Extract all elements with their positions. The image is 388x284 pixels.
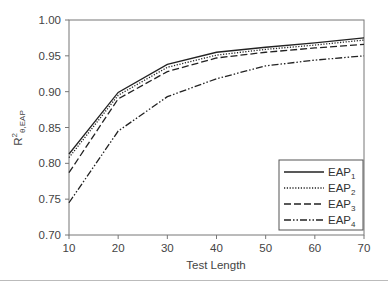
x-tick-label: 10 <box>63 242 76 254</box>
divider <box>0 280 388 281</box>
legend: EAP1EAP2EAP3EAP4 <box>279 160 363 230</box>
x-axis-title: Test Length <box>186 259 245 271</box>
svg-text:R2θ,EAP: R2θ,EAP <box>10 110 27 145</box>
y-tick-label: 0.90 <box>39 86 61 98</box>
y-tick-label: 0.85 <box>39 122 61 134</box>
x-axis: 10203040506070 <box>63 235 371 254</box>
y-tick-label: 0.75 <box>39 193 61 205</box>
x-tick-label: 50 <box>259 242 272 254</box>
series-line-eap1 <box>69 38 364 154</box>
y-tick-label: 0.80 <box>39 157 61 169</box>
line-chart: 0.700.750.800.850.900.951.00 10203040506… <box>0 0 388 284</box>
x-tick-label: 40 <box>210 242 223 254</box>
x-tick-label: 60 <box>308 242 321 254</box>
y-tick-label: 0.70 <box>39 229 61 241</box>
y-tick-label: 1.00 <box>39 14 61 26</box>
y-axis-title: R2θ,EAP <box>10 110 27 145</box>
x-tick-label: 20 <box>112 242 125 254</box>
series-line-eap3 <box>69 44 364 172</box>
y-tick-label: 0.95 <box>39 50 61 62</box>
x-tick-label: 70 <box>358 242 371 254</box>
y-axis: 0.700.750.800.850.900.951.00 <box>39 14 69 241</box>
x-tick-label: 30 <box>161 242 174 254</box>
